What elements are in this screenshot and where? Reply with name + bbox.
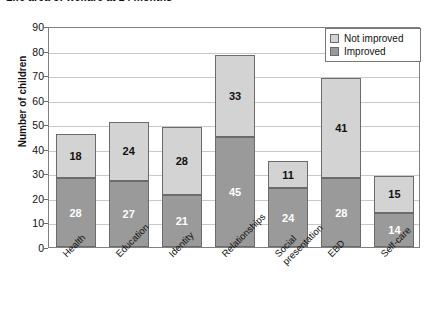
chart-legend: Not improvedImproved xyxy=(325,28,421,62)
stacked-bar-chart: Life area of welfare at 24 months Number… xyxy=(0,0,433,311)
legend-item[interactable]: Not improved xyxy=(330,32,416,45)
bar-column[interactable]: 2724 xyxy=(109,26,149,247)
y-tick-label: 20 xyxy=(0,194,44,205)
bar-segment-improved[interactable]: 28 xyxy=(321,178,361,247)
y-tick-mark xyxy=(44,248,48,249)
legend-item[interactable]: Improved xyxy=(330,45,416,58)
legend-label: Not improved xyxy=(344,32,403,45)
bar-column[interactable]: 4533 xyxy=(215,26,255,247)
bar-segment-not-improved[interactable]: 28 xyxy=(162,127,202,196)
bar-column[interactable]: 2128 xyxy=(162,26,202,247)
bar-segment-not-improved[interactable]: 33 xyxy=(215,55,255,136)
bar-column[interactable]: 2411 xyxy=(268,26,308,247)
bar-segment-not-improved[interactable]: 11 xyxy=(268,161,308,188)
y-tick-label: 10 xyxy=(0,218,44,229)
bar-segment-not-improved[interactable]: 18 xyxy=(56,134,96,178)
chart-title: Life area of welfare at 24 months xyxy=(6,0,172,3)
bar-segment-not-improved[interactable]: 41 xyxy=(321,78,361,179)
y-tick-label: 0 xyxy=(0,243,44,254)
legend-swatch-icon xyxy=(330,34,339,43)
legend-swatch-icon xyxy=(330,47,339,56)
y-axis-title: Number of children xyxy=(17,32,28,172)
legend-label: Improved xyxy=(344,45,386,58)
bar-segment-not-improved[interactable]: 15 xyxy=(374,176,414,213)
bar-segment-not-improved[interactable]: 24 xyxy=(109,122,149,181)
bar-column[interactable]: 2818 xyxy=(56,26,96,247)
